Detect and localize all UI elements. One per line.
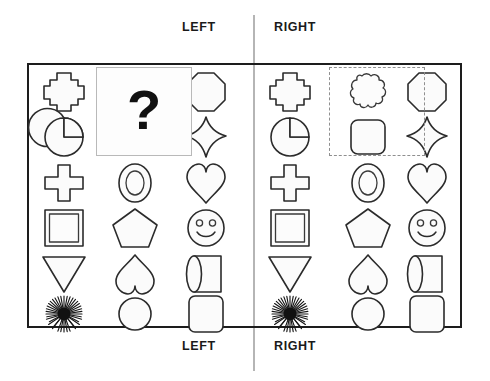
question-mark: ? [127,82,161,138]
label-right-top: RIGHT [274,20,316,34]
shape-pac-man [35,115,93,159]
shape-pac-man [261,115,319,159]
panel-right [255,65,462,330]
shape-oval-ring [106,161,164,205]
shape-inverted-heart [106,251,164,297]
shape-heart [398,161,456,207]
shape-oval-ring [339,161,397,205]
shape-circle [106,297,164,331]
shape-cylinder [177,251,235,297]
label-right-bottom: RIGHT [274,339,316,353]
shape-smiley-face [398,205,456,251]
shape-down-triangle [261,251,319,297]
shape-cylinder [398,251,456,297]
shape-heart [177,161,235,207]
shape-rounded-square [177,297,235,331]
shape-double-square [35,205,93,251]
shape-sunburst [35,297,93,331]
shape-sunburst [261,297,319,331]
shape-smiley-face [177,205,235,251]
shape-thin-cross [261,161,319,205]
shape-down-triangle [35,251,93,297]
shape-thin-cross [35,161,93,205]
shape-double-square [261,205,319,251]
shape-rounded-square [398,297,456,331]
shape-pentagon [339,205,397,251]
shape-inverted-heart [339,251,397,297]
question-box[interactable]: ? [96,67,192,156]
label-left-bottom: LEFT [182,339,216,353]
puzzle-canvas: LEFT RIGHT [0,0,490,381]
label-left-top: LEFT [182,20,216,34]
shape-pentagon [106,205,164,251]
panel-left: ? [29,65,255,330]
shape-circle [339,297,397,331]
shape-thick-cross [261,69,319,115]
dashed-answer-box[interactable] [329,67,425,156]
matrix-frame: ? [27,63,462,328]
